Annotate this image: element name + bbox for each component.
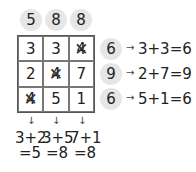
grid-cell: 1 [69, 87, 94, 112]
row-total-3: 6 [100, 88, 122, 110]
column-equation-3: 7+1 =8 [70, 131, 100, 161]
grid-cell: 3 [43, 36, 68, 61]
row-total-2: 9 [100, 63, 122, 85]
grid-cell: 5 [43, 87, 68, 112]
grid-cell-crossed: 4 [18, 87, 43, 112]
row-equation-2: 2+7=9 [138, 65, 192, 83]
column-equation-result: =5 [15, 146, 45, 161]
row-equation-3: 5+1=6 [138, 90, 192, 108]
column-equation-1: 3+2 =5 [15, 131, 45, 161]
grid-cell-crossed: 4 [69, 36, 94, 61]
number-grid: 3 3 4 2 4 7 4 5 1 [17, 35, 95, 113]
column-equation-result: =8 [42, 146, 72, 161]
arrow-down-icon: ↓ [78, 115, 86, 126]
arrow-right-icon: → [126, 67, 134, 78]
grid-cell: 2 [18, 61, 43, 86]
row-equation-1: 3+3=6 [138, 40, 192, 58]
column-equation-2: 3+5 =8 [42, 131, 72, 161]
column-equation-result: =8 [70, 146, 100, 161]
arrow-right-icon: → [126, 42, 134, 53]
arrow-down-icon: ↓ [27, 115, 35, 126]
column-total-1: 5 [20, 9, 42, 31]
arrow-down-icon: ↓ [52, 115, 60, 126]
row-total-1: 6 [100, 38, 122, 60]
grid-cell: 7 [69, 61, 94, 86]
column-total-2: 8 [45, 9, 67, 31]
grid-cell: 3 [18, 36, 43, 61]
column-total-3: 8 [70, 9, 92, 31]
grid-cell-crossed: 4 [43, 61, 68, 86]
arrow-right-icon: → [126, 92, 134, 103]
